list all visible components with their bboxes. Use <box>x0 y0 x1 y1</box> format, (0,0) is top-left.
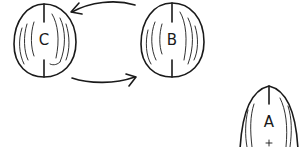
node-c: C <box>14 4 76 77</box>
node-a-label: A <box>264 113 275 131</box>
node-b: B <box>141 3 204 77</box>
arrow-c-to-b <box>72 74 136 86</box>
arrow-b-to-c <box>71 2 135 14</box>
node-c-label: C <box>39 31 49 49</box>
node-a: A <box>240 86 298 147</box>
diagram-canvas: C B A <box>0 0 301 147</box>
node-b-label: B <box>167 31 177 49</box>
